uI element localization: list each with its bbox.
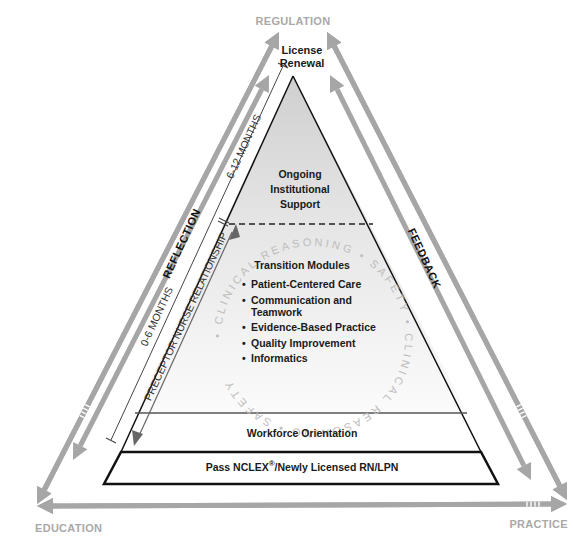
nclex-prefix: Pass NCLEX <box>206 461 269 473</box>
module-bullet: • <box>242 321 246 333</box>
module-item-evidence-based-practice: Evidence-Based Practice <box>251 321 376 333</box>
apex-label-line-2: Renewal <box>280 57 325 69</box>
apex-label-line-1: License <box>282 44 323 56</box>
module-item-communication: Communication and <box>251 294 352 306</box>
corner-label-education: EDUCATION <box>35 522 102 534</box>
transition-to-practice-diagram: • CLINICAL REASONING • SAFETY • CLINICAL… <box>0 0 573 538</box>
tier-base-nclex: Pass NCLEX®/Newly Licensed RN/LPN <box>206 459 399 473</box>
module-bullet: • <box>242 352 246 364</box>
arrow-bottom-head-end <box>551 496 567 512</box>
module-bullet: • <box>242 278 246 290</box>
module-bullet: • <box>242 337 246 349</box>
module-item-informatics: Informatics <box>251 352 308 364</box>
module-item-quality-improvement: Quality Improvement <box>251 337 356 349</box>
module-bullet: • <box>242 294 246 306</box>
tier-ongoing-line-2: Institutional <box>270 183 330 195</box>
corner-label-regulation: REGULATION <box>256 15 331 27</box>
nclex-suffix: /Newly Licensed RN/LPN <box>275 461 399 473</box>
module-item-teamwork: Teamwork <box>251 306 302 318</box>
tier-workforce-orientation: Workforce Orientation <box>247 427 358 439</box>
timeline-tick-bottom <box>106 438 116 443</box>
arrow-bottom-shaft <box>53 504 551 506</box>
transition-modules-title: Transition Modules <box>254 259 350 271</box>
corner-label-practice: PRACTICE <box>509 518 568 530</box>
tier-ongoing-line-3: Support <box>280 198 321 210</box>
tier-ongoing-line-1: Ongoing <box>278 168 321 180</box>
module-item-patient-centered-care: Patient-Centered Care <box>251 278 361 290</box>
side-label-feedback: FEEDBACK <box>406 226 444 290</box>
